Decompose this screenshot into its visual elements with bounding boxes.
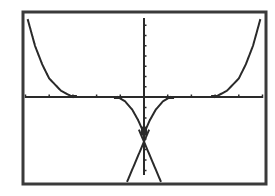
calculator-graph-screen <box>0 0 275 196</box>
touch-point-right <box>211 95 219 98</box>
touch-point-left <box>69 95 77 98</box>
inner-point-left <box>114 96 122 99</box>
intersection-point <box>141 127 147 136</box>
inner-point-right <box>166 96 174 99</box>
graph-canvas <box>0 0 275 196</box>
